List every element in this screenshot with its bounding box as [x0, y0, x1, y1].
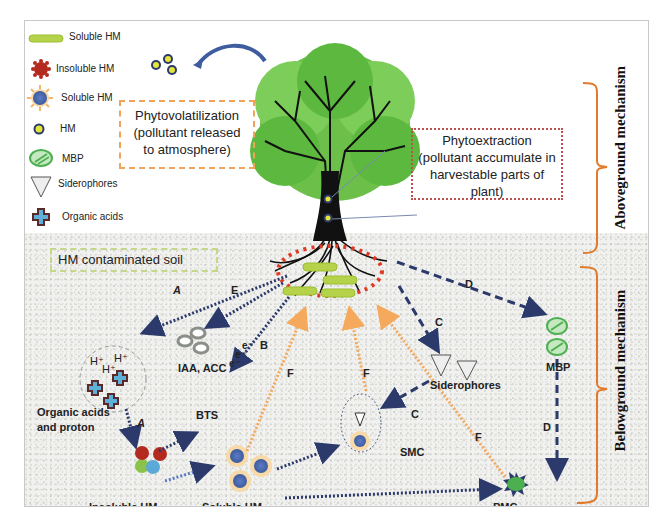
mbp-icon [30, 150, 52, 166]
insoluble-hm-label: Insoluble HM [89, 501, 157, 507]
legend-label-soluble-hm-bar: Soluble HM [69, 31, 121, 42]
arrow-bts [159, 434, 194, 451]
iaa-acc-label: IAA, ACC [178, 362, 226, 374]
pathway-letter-F2: F [363, 367, 370, 379]
electron-label-3: e⁻ [229, 358, 240, 369]
soluble-hm-star-icon [27, 85, 53, 111]
arrow-F1 [247, 311, 304, 451]
belowground-mechanism-label: Belowground mechanism [612, 312, 629, 452]
proton-label-3: H⁺ [102, 363, 116, 376]
arrow-A1 [145, 276, 287, 332]
organic-acid-icon [33, 209, 49, 225]
diagram-frame: Soluble HM Insoluble HM Soluble HM HM MB… [24, 20, 649, 507]
iaa-acc-icon [178, 328, 208, 353]
phytoextraction-desc-2: harvestable parts of [416, 166, 558, 183]
arrow-insoluble-to-soluble [165, 467, 210, 481]
siderophores-label: Siderophores [430, 379, 501, 391]
arrow-C2 [385, 381, 429, 406]
pathway-letter-A1: A [173, 284, 181, 296]
insoluble-hm-icon [31, 59, 51, 79]
pmc-icon [503, 472, 529, 497]
pathway-letter-F1: F [287, 367, 294, 379]
bts-label: BTS [196, 409, 218, 421]
siderophore-icon [31, 177, 51, 197]
pathway-letter-F3: F [475, 431, 482, 443]
belowground-bracket [577, 267, 607, 503]
pathway-letter-C1: C [435, 316, 443, 328]
pathway-letter-D2: D [543, 421, 551, 433]
arrow-soluble-to-pmc [285, 489, 497, 498]
pmc-label: PMC [493, 501, 517, 507]
arrow-C1 [399, 286, 437, 349]
pathway-letter-C2: C [411, 408, 419, 420]
pathway-letter-D1: D [465, 278, 473, 290]
phytoextraction-desc-1: (pollutant accumulate in [416, 149, 558, 166]
arrow-F3 [380, 309, 505, 477]
pathway-letter-B: B [260, 339, 268, 351]
arrow-F2 [350, 311, 366, 391]
insoluble-hm-cluster [135, 446, 167, 474]
legend-label-organic-acids: Organic acids [62, 211, 123, 222]
legend-label-mbp: MBP [62, 153, 84, 164]
legend-label-hm: HM [60, 123, 76, 134]
volatilized-hm-icons [151, 54, 177, 75]
phytoextraction-box: Phytoextraction (pollutant accumulate in… [411, 128, 563, 200]
proton-label-2: H⁺ [114, 352, 128, 365]
pathway-letter-A2: A [137, 417, 145, 429]
phytovolatilization-desc-2: to atmosphere) [125, 141, 249, 158]
mbp-ovals [547, 318, 567, 355]
organic-acids-label-1: Organic acids [37, 405, 110, 420]
soluble-hm-cluster [226, 445, 272, 492]
organic-acids-proton-label: Organic acids and proton [37, 405, 110, 435]
legend-label-soluble-hm-star: Soluble HM [61, 92, 113, 103]
aboveground-mechanism-label: Aboveground mechanism [612, 90, 629, 230]
arrow-soluble-to-smc [277, 447, 335, 469]
phytoextraction-desc-3: plant) [416, 183, 558, 200]
phytovolatilization-box: Phytovolatilization (pollutant released … [119, 100, 255, 169]
legend-label-siderophores: Siderophores [58, 178, 117, 189]
organic-acids-label-2: and proton [37, 420, 110, 435]
legend-label-insoluble-hm: Insoluble HM [56, 63, 114, 74]
soluble-hm-bar-icon [29, 35, 63, 42]
pathway-letter-E: E [231, 284, 238, 296]
siderophore-triangles [431, 355, 477, 380]
aboveground-bracket [583, 83, 607, 253]
smc-label: SMC [400, 446, 424, 458]
mbp-label: MBP [546, 361, 570, 373]
volatilization-arrow [197, 46, 265, 66]
phytoextraction-title: Phytoextraction [416, 132, 558, 149]
tree-icon [250, 43, 420, 241]
phytovolatilization-title: Phytovolatilization [125, 107, 249, 124]
hm-gear-icon [34, 124, 45, 135]
arrow-A2 [126, 409, 135, 444]
soil-label-box: HM contaminated soil [50, 248, 218, 272]
soluble-hm-label: Soluble HM [202, 501, 262, 507]
phytovolatilization-desc-1: (pollutant released [125, 124, 249, 141]
